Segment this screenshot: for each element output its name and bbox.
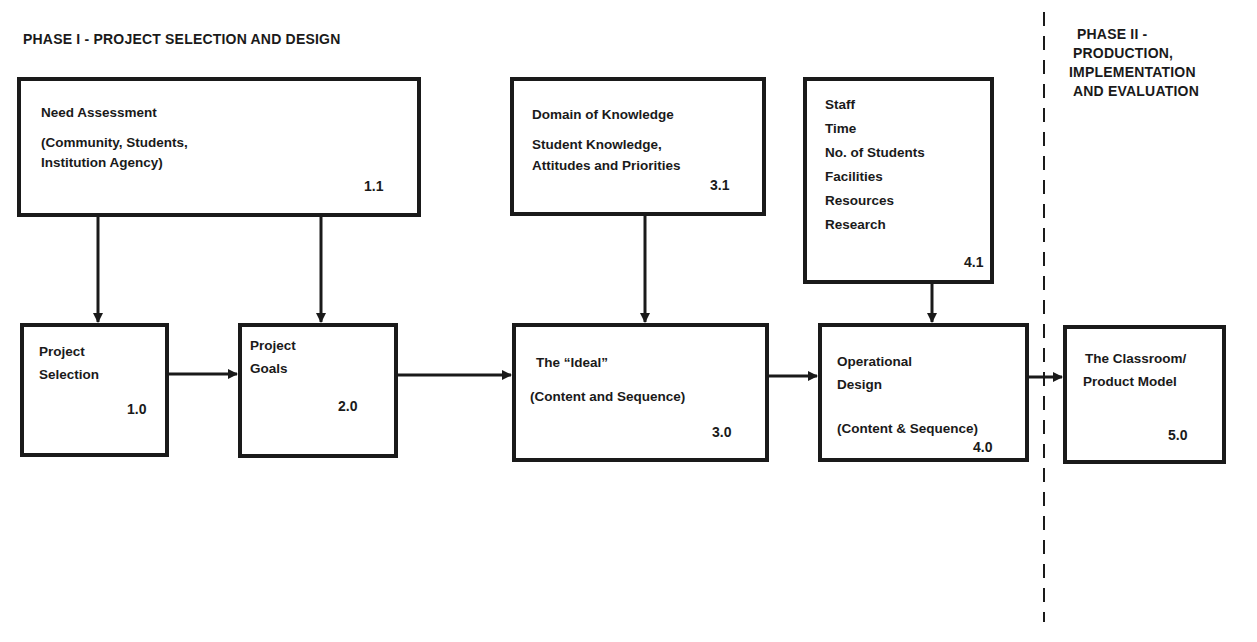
box-label: The Classroom/	[1085, 349, 1186, 369]
phase-2-title: PHASE II - PRODUCTION, IMPLEMENTATION AN…	[1073, 25, 1199, 101]
phase-2-title-line: PHASE II -	[1073, 25, 1199, 44]
box-number: 4.1	[964, 254, 983, 270]
box-label: Need Assessment	[41, 103, 157, 123]
box-label: No. of Students	[825, 143, 925, 163]
box-label: Design	[837, 375, 882, 395]
box-project-goals: Project Goals 2.0	[238, 323, 398, 458]
box-label: Institution Agency)	[41, 153, 163, 173]
box-domain-of-knowledge: Domain of Knowledge Student Knowledge, A…	[510, 77, 766, 216]
box-label: (Community, Students,	[41, 133, 188, 153]
flow-diagram: PHASE I - PROJECT SELECTION AND DESIGN P…	[0, 0, 1257, 642]
box-label: Time	[825, 119, 856, 139]
box-project-selection: Project Selection 1.0	[20, 323, 169, 457]
phase-1-title: PHASE I - PROJECT SELECTION AND DESIGN	[23, 30, 340, 49]
phase-2-title-line: AND EVALUATION	[1073, 82, 1199, 101]
phase-2-title-line: PRODUCTION,	[1073, 44, 1199, 63]
box-label: Resources	[825, 191, 894, 211]
box-number: 3.1	[710, 177, 729, 193]
box-label: Product Model	[1083, 372, 1177, 392]
box-number: 1.0	[127, 401, 146, 417]
box-label: Student Knowledge,	[532, 135, 662, 155]
box-need-assessment: Need Assessment (Community, Students, In…	[17, 77, 421, 217]
box-label: (Content & Sequence)	[837, 419, 978, 439]
box-label: (Content and Sequence)	[530, 387, 685, 407]
box-label: Project	[39, 342, 85, 362]
box-classroom-product-model: The Classroom/ Product Model 5.0	[1063, 325, 1226, 464]
box-number: 4.0	[973, 439, 992, 455]
box-label: Selection	[39, 365, 99, 385]
box-label: Operational	[837, 352, 912, 372]
box-operational-design: Operational Design (Content & Sequence) …	[818, 323, 1029, 462]
box-label: Facilities	[825, 167, 883, 187]
box-label: Research	[825, 215, 886, 235]
box-resources-constraints: Staff Time No. of Students Facilities Re…	[803, 77, 994, 284]
box-number: 1.1	[364, 178, 383, 194]
box-label: Attitudes and Priorities	[532, 156, 681, 176]
box-number: 5.0	[1168, 427, 1187, 443]
box-number: 2.0	[338, 398, 357, 414]
box-label: Project	[250, 336, 296, 356]
box-number: 3.0	[712, 424, 731, 440]
box-the-ideal: The “Ideal” (Content and Sequence) 3.0	[512, 323, 769, 462]
box-label: The “Ideal”	[536, 353, 608, 373]
box-label: Staff	[825, 95, 855, 115]
box-label: Goals	[250, 359, 288, 379]
box-label: Domain of Knowledge	[532, 105, 674, 125]
phase-2-title-line: IMPLEMENTATION	[1069, 63, 1199, 82]
